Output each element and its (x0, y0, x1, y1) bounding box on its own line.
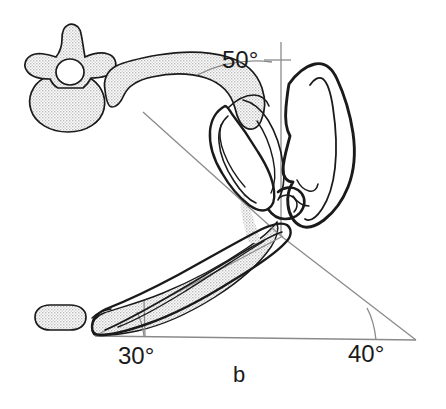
descending-axis (281, 236, 416, 340)
vertebra-axial-cross-section (25, 24, 116, 132)
angle-label-40-degrees: 40° (348, 342, 384, 366)
angle-label-30-degrees: 30° (118, 344, 154, 368)
angle-arc-40 (367, 308, 376, 340)
oblique-axis-upper (143, 112, 281, 236)
scapula-outline-right (283, 64, 354, 228)
anatomical-figure-panel-b: 50° 30° 40° b (0, 0, 446, 409)
sternum-cross-section (35, 305, 86, 330)
angle-label-50-degrees: 50° (222, 48, 258, 72)
vertebral-foramen-icon (56, 59, 84, 85)
panel-label: b (233, 364, 245, 386)
